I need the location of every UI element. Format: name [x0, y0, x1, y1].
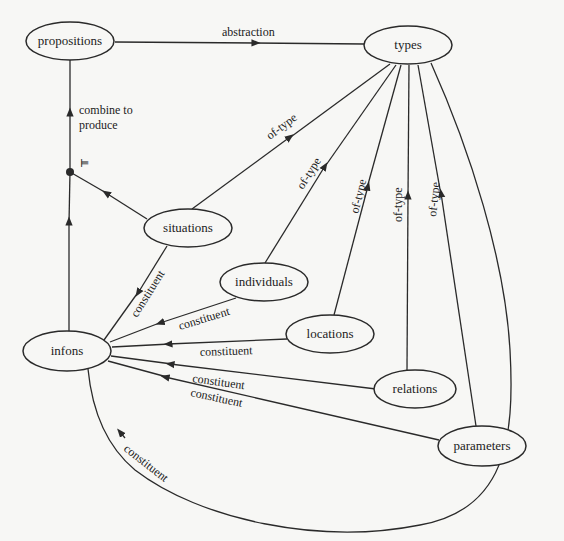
node-infons: infons: [23, 331, 111, 371]
edge-constituent-situations: constituent: [104, 246, 168, 340]
node-individuals: individuals: [220, 263, 308, 301]
edge-label-combine-line1: combine to: [79, 103, 133, 117]
node-situations: situations: [144, 209, 232, 247]
node-label-propositions: propositions: [38, 33, 102, 48]
edge-label-constituent-situations: constituent: [128, 267, 168, 320]
node-types: types: [364, 26, 452, 64]
situation-theory-diagram: abstraction combine to produce ⊨ of-type…: [0, 0, 564, 541]
edge-situations-to-junction: [70, 172, 147, 219]
entails-symbol: ⊨: [80, 157, 89, 169]
edge-label-combine-line2: produce: [79, 118, 118, 132]
edge-constituent-locations: constituent: [112, 339, 287, 359]
edge-of-type-relations: of-type: [391, 65, 409, 370]
edge-label-of-type-relations: of-type: [391, 187, 405, 222]
edge-label-abstraction: abstraction: [222, 25, 275, 39]
node-label-individuals: individuals: [235, 274, 293, 289]
edge-combine-to-produce: combine to produce: [70, 60, 133, 172]
node-parameters: parameters: [438, 426, 526, 466]
edge-label-of-type-situations: of-type: [263, 110, 299, 142]
node-label-types: types: [394, 37, 421, 52]
node-label-relations: relations: [393, 381, 438, 396]
edge-abstraction: abstraction: [115, 25, 364, 44]
node-label-infons: infons: [51, 343, 84, 358]
edge-label-constituent-locations: constituent: [200, 343, 254, 359]
junction-dot: [66, 168, 74, 176]
edge-label-of-type-locations: of-type: [347, 178, 369, 215]
node-label-locations: locations: [307, 326, 354, 341]
node-relations: relations: [374, 370, 456, 408]
node-locations: locations: [286, 315, 374, 353]
edge-constituent-relations: constituent: [111, 356, 376, 392]
edge-of-type-individuals: of-type: [265, 65, 396, 263]
node-label-situations: situations: [163, 220, 213, 235]
edge-label-of-type-parameters: of-type: [425, 181, 443, 217]
node-propositions: propositions: [26, 22, 114, 60]
edge-label-of-type-individuals: of-type: [294, 155, 324, 192]
node-label-parameters: parameters: [453, 438, 510, 453]
edge-infons-to-junction: [69, 172, 70, 331]
